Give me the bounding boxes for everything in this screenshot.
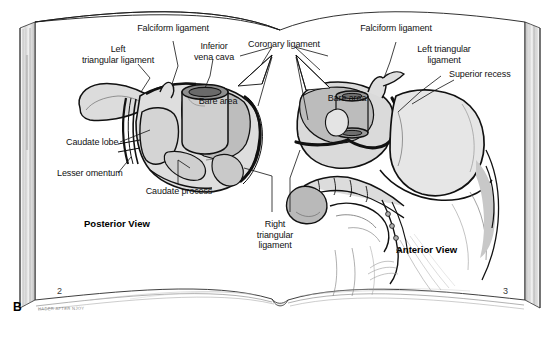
left-book-edge bbox=[20, 22, 35, 308]
page-number-left: 2 bbox=[57, 286, 62, 296]
label-left-triangular-ligament-right: Left triangular ligament bbox=[401, 44, 487, 65]
label-inferior-vena-cava: Inferior vena cava bbox=[185, 41, 243, 62]
artist-signature: HADER AFTER NJOY bbox=[38, 306, 85, 311]
label-bare-area-right: Bare area bbox=[318, 93, 376, 104]
label-left-triangular-ligament-left: Left triangular ligament bbox=[62, 44, 174, 65]
label-anterior-view: Anterior View bbox=[396, 244, 457, 255]
page-number-right: 3 bbox=[503, 286, 508, 296]
inferior-vena-cava-tube bbox=[182, 85, 228, 155]
right-book-edge bbox=[525, 22, 540, 308]
label-falciform-ligament-left: Falciform ligament bbox=[121, 23, 225, 34]
label-caudate-lobe: Caudate lobe bbox=[66, 137, 126, 148]
label-bare-area-left: Bare area bbox=[189, 96, 247, 107]
label-right-triangular-ligament: Right triangular ligament bbox=[245, 219, 305, 251]
label-caudate-process: Caudate process bbox=[140, 186, 218, 197]
label-coronary-ligament: Coronary ligament bbox=[238, 39, 330, 50]
anatomy-figure: Falciform ligament Left triangular ligam… bbox=[0, 0, 560, 339]
panel-letter: B bbox=[13, 300, 22, 314]
label-falciform-ligament-right: Falciform ligament bbox=[344, 23, 448, 34]
label-superior-recess: Superior recess bbox=[449, 69, 529, 80]
label-posterior-view: Posterior View bbox=[84, 218, 150, 229]
label-lesser-omentum: Lesser omentum bbox=[57, 168, 131, 179]
